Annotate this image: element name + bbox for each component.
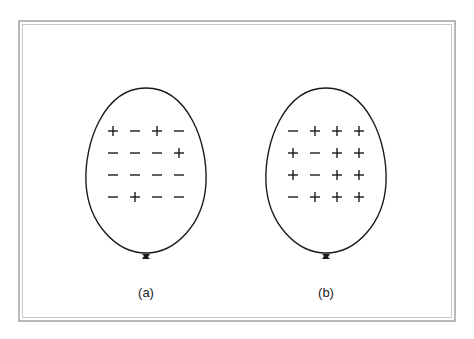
- caption-a: (a): [138, 285, 154, 300]
- plus-charge-icon: [354, 148, 364, 158]
- plus-charge-icon: [152, 126, 162, 136]
- balloon-knot: [322, 254, 330, 259]
- plus-charge-icon: [174, 148, 184, 158]
- plus-charge-icon: [310, 126, 320, 136]
- plus-charge-icon: [332, 148, 342, 158]
- caption-b: (b): [318, 285, 334, 300]
- balloon-knot: [142, 254, 150, 259]
- balloon-outline: [86, 88, 206, 253]
- plus-charge-icon: [288, 148, 298, 158]
- plus-charge-icon: [108, 126, 118, 136]
- plus-charge-icon: [332, 170, 342, 180]
- balloon-a: [86, 88, 206, 259]
- plus-charge-icon: [130, 192, 140, 202]
- plus-charge-icon: [354, 192, 364, 202]
- plus-charge-icon: [310, 192, 320, 202]
- balloon-diagram: [0, 0, 474, 339]
- plus-charge-icon: [354, 170, 364, 180]
- plus-charge-icon: [332, 126, 342, 136]
- plus-charge-icon: [332, 192, 342, 202]
- balloon-b: [266, 88, 386, 259]
- plus-charge-icon: [354, 126, 364, 136]
- balloon-outline: [266, 88, 386, 253]
- plus-charge-icon: [288, 170, 298, 180]
